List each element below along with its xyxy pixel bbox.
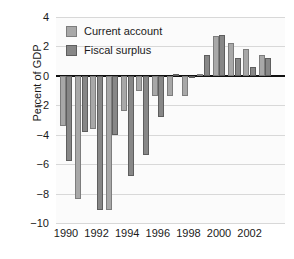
legend-item-current-account: Current account — [66, 23, 162, 39]
legend-swatch-fiscal-surplus — [66, 45, 77, 56]
legend-label-current-account: Current account — [84, 26, 162, 37]
x-tick-label: 1994 — [115, 228, 139, 239]
x-tick-label: 1992 — [84, 228, 108, 239]
bar-chart: Percent of GDP 420−2−4−6−8−10 1990199219… — [0, 0, 294, 259]
legend-swatch-current-account — [66, 26, 77, 37]
x-tick-label: 1996 — [146, 228, 170, 239]
x-tick-label: 1990 — [54, 228, 78, 239]
x-tick-label: 2002 — [237, 228, 261, 239]
x-tick-label: 1998 — [176, 228, 200, 239]
x-tick-label: 2000 — [207, 228, 231, 239]
chart-legend: Current account Fiscal surplus — [66, 23, 162, 61]
legend-item-fiscal-surplus: Fiscal surplus — [66, 42, 162, 58]
legend-label-fiscal-surplus: Fiscal surplus — [84, 45, 151, 56]
